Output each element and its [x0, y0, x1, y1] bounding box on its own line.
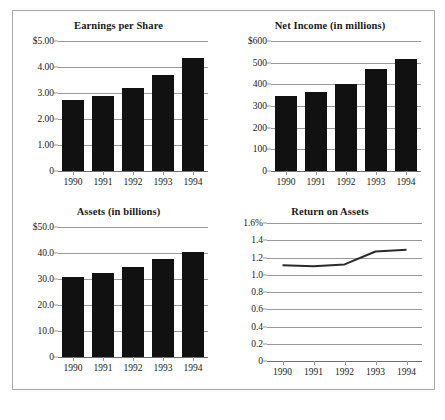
- y-axis-tick-mark: [54, 279, 58, 280]
- x-axis-tick-label: 1993: [366, 367, 385, 378]
- y-axis-tick-mark: [267, 106, 271, 107]
- bar: [335, 84, 357, 171]
- y-axis-tick-label: 500: [253, 58, 267, 68]
- x-axis-tick-label: 1992: [335, 367, 354, 378]
- y-axis-tick-mark: [54, 41, 58, 42]
- x-axis-tick-mark: [314, 361, 315, 365]
- plot-area-return-on-assets: 1.6%1.41.21.00.80.60.40.2019901991199219…: [267, 223, 422, 361]
- y-axis-tick-label: 0: [262, 166, 267, 176]
- x-axis-tick-mark: [73, 171, 74, 175]
- plot-area-net-income: $600500400300200100019901991199219931994: [271, 41, 421, 171]
- x-axis-tick-label: 1991: [94, 363, 113, 374]
- x-axis-tick-mark: [133, 357, 134, 361]
- line-series-return-on-assets: [267, 223, 422, 361]
- y-axis-tick-label: 3.00: [37, 88, 54, 98]
- x-axis-tick-mark: [316, 171, 317, 175]
- x-axis-tick-mark: [103, 171, 104, 175]
- x-axis-tick-mark: [286, 171, 287, 175]
- y-axis-tick-label: 1.6%: [243, 218, 263, 228]
- x-axis-tick-mark: [376, 361, 377, 365]
- x-axis-tick-mark: [345, 361, 346, 365]
- chart-panel-net-income: Net Income (in millions) $60050040030020…: [224, 11, 436, 201]
- bar: [182, 58, 204, 171]
- bar: [275, 96, 297, 171]
- bar: [92, 273, 114, 358]
- x-axis-tick-mark: [163, 357, 164, 361]
- y-axis-tick-mark: [267, 171, 271, 172]
- x-axis-tick-label: 1993: [367, 177, 386, 188]
- chart-panel-earnings-per-share: Earnings per Share $5.004.003.002.001.00…: [13, 11, 224, 201]
- y-axis-tick-mark: [54, 93, 58, 94]
- y-axis-tick-label: 0.2: [251, 339, 263, 349]
- y-axis-tick-label: 0: [49, 352, 54, 362]
- x-axis-tick-label: 1990: [273, 367, 292, 378]
- chart-panel-return-on-assets: Return on Assets 1.6%1.41.21.00.80.60.40…: [224, 201, 436, 391]
- y-axis-tick-label: 40.0: [37, 248, 54, 258]
- y-axis-tick-label: 0.6: [251, 304, 263, 314]
- y-axis-tick-label: 400: [253, 79, 267, 89]
- bar: [395, 59, 417, 171]
- bar: [92, 96, 114, 171]
- gridline: [271, 41, 421, 42]
- x-axis-tick-mark: [163, 171, 164, 175]
- y-axis-tick-label: 1.4: [251, 235, 263, 245]
- y-axis-tick-mark: [54, 253, 58, 254]
- y-axis-tick-mark: [54, 227, 58, 228]
- y-axis-tick-mark: [267, 41, 271, 42]
- x-axis-tick-label: 1992: [337, 177, 356, 188]
- bar: [152, 75, 174, 171]
- x-axis-tick-label: 1990: [277, 177, 296, 188]
- y-axis-tick-label: 1.2: [251, 253, 263, 263]
- y-axis-tick-label: $5.00: [33, 36, 54, 46]
- x-axis-tick-mark: [283, 361, 284, 365]
- y-axis-tick-mark: [267, 149, 271, 150]
- y-axis-tick-label: 300: [253, 101, 267, 111]
- x-axis-tick-mark: [407, 361, 408, 365]
- gridline: [58, 227, 208, 228]
- x-axis-tick-label: 1994: [397, 177, 416, 188]
- bar: [182, 252, 204, 357]
- chart-title-return-on-assets: Return on Assets: [224, 206, 436, 218]
- x-axis-tick-label: 1993: [154, 177, 173, 188]
- y-axis-tick-mark: [54, 305, 58, 306]
- x-axis-tick-label: 1994: [184, 177, 203, 188]
- y-axis-tick-mark: [54, 357, 58, 358]
- bar: [305, 92, 327, 171]
- x-axis-tick-label: 1994: [184, 363, 203, 374]
- x-axis-tick-mark: [193, 171, 194, 175]
- bar: [122, 88, 144, 171]
- y-axis-tick-mark: [54, 331, 58, 332]
- x-axis-tick-label: 1993: [154, 363, 173, 374]
- x-axis-tick-label: 1991: [304, 367, 323, 378]
- y-axis-tick-label: 10.0: [37, 326, 54, 336]
- x-axis-tick-label: 1991: [94, 177, 113, 188]
- y-axis-tick-label: 1.0: [251, 270, 263, 280]
- y-axis-tick-label: 0: [49, 166, 54, 176]
- y-axis-tick-label: 0.4: [251, 322, 263, 332]
- x-axis-tick-mark: [133, 171, 134, 175]
- y-axis-tick-label: 200: [253, 123, 267, 133]
- y-axis-tick-label: 30.0: [37, 274, 54, 284]
- x-axis-tick-label: 1992: [124, 177, 143, 188]
- bar: [122, 267, 144, 357]
- bar: [152, 259, 174, 357]
- plot-area-assets: $50.040.030.020.010.00199019911992199319…: [58, 227, 208, 357]
- chart-title-net-income: Net Income (in millions): [224, 20, 436, 32]
- y-axis-tick-mark: [54, 171, 58, 172]
- x-axis-tick-label: 1990: [64, 363, 83, 374]
- y-axis-tick-mark: [54, 145, 58, 146]
- plot-area-earnings-per-share: $5.004.003.002.001.000199019911992199319…: [58, 41, 208, 171]
- x-axis-tick-mark: [73, 357, 74, 361]
- x-axis-tick-label: 1991: [307, 177, 326, 188]
- y-axis-tick-label: 100: [253, 144, 267, 154]
- y-axis-tick-mark: [267, 84, 271, 85]
- bar: [62, 100, 84, 171]
- y-axis-tick-label: 0: [258, 356, 263, 366]
- y-axis-tick-label: 1.00: [37, 140, 54, 150]
- chart-title-assets: Assets (in billions): [13, 206, 224, 218]
- chart-panel-assets: Assets (in billions) $50.040.030.020.010…: [13, 201, 224, 391]
- y-axis-tick-mark: [267, 127, 271, 128]
- bar: [365, 69, 387, 171]
- x-axis-tick-label: 1992: [124, 363, 143, 374]
- y-axis-tick-label: $600: [248, 36, 267, 46]
